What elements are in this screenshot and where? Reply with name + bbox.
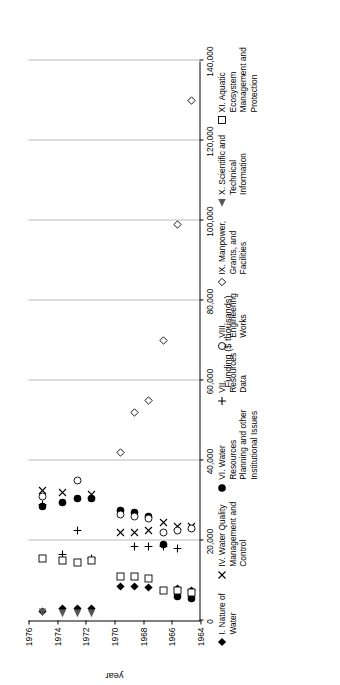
data-point: [87, 556, 96, 565]
data-point: [173, 586, 182, 595]
data-point: [115, 448, 124, 457]
chart-legend: I. Nature of WaterIV. Water Quality Mana…: [216, 37, 328, 649]
data-point: [38, 554, 47, 563]
funding-tick-label: 100,000: [204, 206, 214, 236]
data-point: [58, 608, 67, 617]
data-point: [158, 518, 167, 527]
funding-tick-label: 40,000: [204, 448, 214, 474]
filled-diamond-icon: [216, 635, 227, 649]
funding-tick-label: 20,000: [204, 528, 214, 554]
gridline: [28, 139, 199, 140]
data-point: [144, 574, 153, 583]
gridline: [28, 459, 199, 460]
data-point: [173, 220, 182, 229]
data-point: [38, 608, 47, 617]
gridline: [28, 379, 199, 380]
chart-canvas: I. Nature of WaterIV. Water Quality Mana…: [0, 0, 340, 685]
data-point: [187, 588, 196, 597]
data-point: [72, 526, 81, 535]
data-point: [144, 396, 153, 405]
data-point: [115, 581, 124, 590]
year-tick-label: 1964: [195, 627, 205, 646]
data-point: [130, 572, 139, 581]
data-point: [144, 542, 153, 551]
data-point: [58, 488, 67, 497]
data-point: [158, 336, 167, 345]
year-tick-label: 1976: [23, 627, 33, 646]
funding-tick-label: 60,000: [204, 368, 214, 394]
data-point: [130, 512, 139, 521]
data-point: [144, 526, 153, 535]
year-axis-title-text: year: [105, 670, 123, 680]
data-point: [58, 556, 67, 565]
data-point: [144, 514, 153, 523]
data-point: [173, 526, 182, 535]
rotated-figure: I. Nature of WaterIV. Water Quality Mana…: [0, 0, 340, 685]
funding-tick-mark: [199, 59, 203, 60]
year-tick-label: 1966: [166, 627, 176, 646]
data-point: [130, 408, 139, 417]
data-point: [87, 608, 96, 617]
data-point: [130, 528, 139, 537]
gridline: [28, 539, 199, 540]
data-point: [115, 528, 124, 537]
data-point: [158, 542, 167, 551]
data-point: [130, 582, 139, 591]
gridline: [28, 299, 199, 300]
year-tick-label: 1972: [80, 627, 90, 646]
data-point: [72, 494, 81, 503]
year-tick-label: 1970: [109, 627, 119, 646]
data-point: [115, 572, 124, 581]
data-point: [58, 498, 67, 507]
data-point: [144, 583, 153, 592]
data-point: [158, 528, 167, 537]
data-point: [173, 544, 182, 553]
data-point: [38, 492, 47, 501]
data-point: [187, 524, 196, 533]
gridline: [28, 59, 199, 60]
funding-axis-title: Funding ($ thousands): [222, 61, 232, 621]
year-tick-label: 1968: [138, 627, 148, 646]
year-axis-title: year: [28, 667, 200, 683]
data-point: [72, 558, 81, 567]
year-axis-ticks: 1964196619681970197219741976: [28, 623, 204, 665]
funding-tick-label: 80,000: [204, 288, 214, 314]
data-point: [187, 96, 196, 105]
year-tick-label: 1974: [52, 627, 62, 646]
plot-area: [28, 61, 200, 621]
data-point: [87, 494, 96, 503]
funding-tick-label: 120,000: [204, 126, 214, 156]
funding-tick-label: 0: [204, 619, 214, 624]
data-point: [115, 510, 124, 519]
funding-tick-label: 140,000: [204, 46, 214, 76]
data-point: [72, 476, 81, 485]
data-point: [158, 586, 167, 595]
data-point: [130, 542, 139, 551]
data-point: [72, 608, 81, 617]
